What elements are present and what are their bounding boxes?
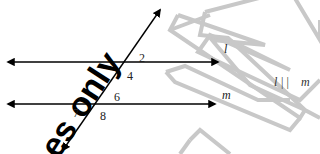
angle-label-6: 6: [114, 90, 120, 104]
geometry-figure: es only 2 4 6 7 8 l m l | | m: [0, 0, 320, 154]
angle-label-4: 4: [127, 69, 133, 83]
parallel-symbol: | |: [281, 75, 289, 89]
angle-label-8: 8: [100, 109, 106, 123]
watermark-outline-shape: [166, 0, 320, 154]
statement-right: m: [301, 75, 310, 89]
angle-label-7: 7: [73, 106, 79, 120]
angle-label-2: 2: [139, 51, 145, 65]
diagram-canvas: es only 2 4 6 7 8 l m l | | m: [0, 0, 320, 154]
line-m-label: m: [222, 88, 231, 102]
